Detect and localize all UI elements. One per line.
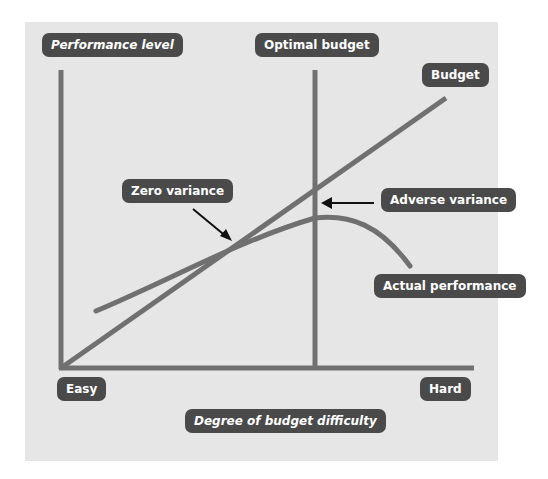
optimal-budget-label: Optimal budget [255, 33, 379, 57]
zero-variance-label: Zero variance [122, 179, 233, 203]
zero-variance-arrowhead [220, 229, 232, 241]
hard-label: Hard [420, 377, 471, 401]
adverse-variance-label: Adverse variance [381, 188, 516, 212]
actual-performance-label: Actual performance [374, 274, 526, 298]
y-axis-label: Performance level [42, 33, 183, 57]
budget-line [61, 98, 446, 368]
budget-label: Budget [422, 63, 489, 87]
easy-label: Easy [57, 377, 106, 401]
adverse-variance-arrowhead [321, 197, 332, 209]
x-axis-label: Degree of budget difficulty [185, 409, 386, 433]
